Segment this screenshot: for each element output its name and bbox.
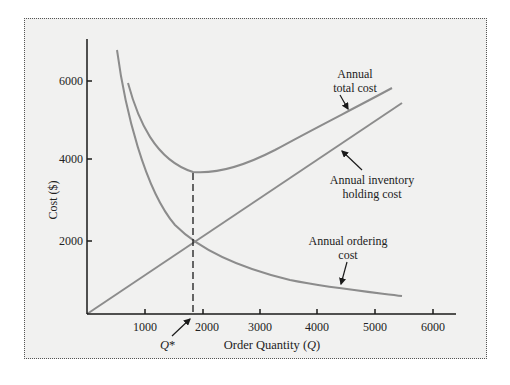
y-axis-title: Cost ($) <box>46 180 60 219</box>
svg-text:4000: 4000 <box>305 320 329 334</box>
y-tick-labels: 6000 4000 2000 <box>59 74 83 248</box>
x-axis-title: Order Quantity (Q) <box>224 338 321 352</box>
total-cost-annotation: Annual total cost <box>333 67 377 95</box>
holding-cost-arrow <box>342 151 362 170</box>
svg-text:Annual ordering: Annual ordering <box>309 234 388 248</box>
q-star-arrow <box>172 319 190 336</box>
holding-cost-annotation: Annual inventory holding cost <box>330 173 414 201</box>
svg-text:6000: 6000 <box>59 74 83 88</box>
svg-text:2000: 2000 <box>195 320 219 334</box>
ordering-cost-annotation: Annual ordering cost <box>309 234 388 262</box>
svg-text:3000: 3000 <box>248 320 272 334</box>
svg-text:total cost: total cost <box>333 81 377 95</box>
svg-text:1000: 1000 <box>133 320 157 334</box>
svg-text:Annual: Annual <box>337 67 373 81</box>
svg-text:5000: 5000 <box>363 320 387 334</box>
svg-text:cost: cost <box>338 248 358 262</box>
svg-text:holding cost: holding cost <box>343 187 403 201</box>
svg-text:6000: 6000 <box>421 320 445 334</box>
total-cost-arrow <box>340 95 348 109</box>
eoq-chart: 6000 4000 2000 1000 2000 3000 4000 5000 … <box>0 0 510 385</box>
svg-text:Annual inventory: Annual inventory <box>330 173 414 187</box>
q-star-label: Q* <box>160 338 175 352</box>
svg-text:2000: 2000 <box>59 234 83 248</box>
ordering-cost-arrow <box>341 262 347 284</box>
x-tick-labels: 1000 2000 3000 4000 5000 6000 <box>133 320 445 334</box>
total-cost-curve <box>128 83 392 172</box>
svg-text:4000: 4000 <box>59 152 83 166</box>
